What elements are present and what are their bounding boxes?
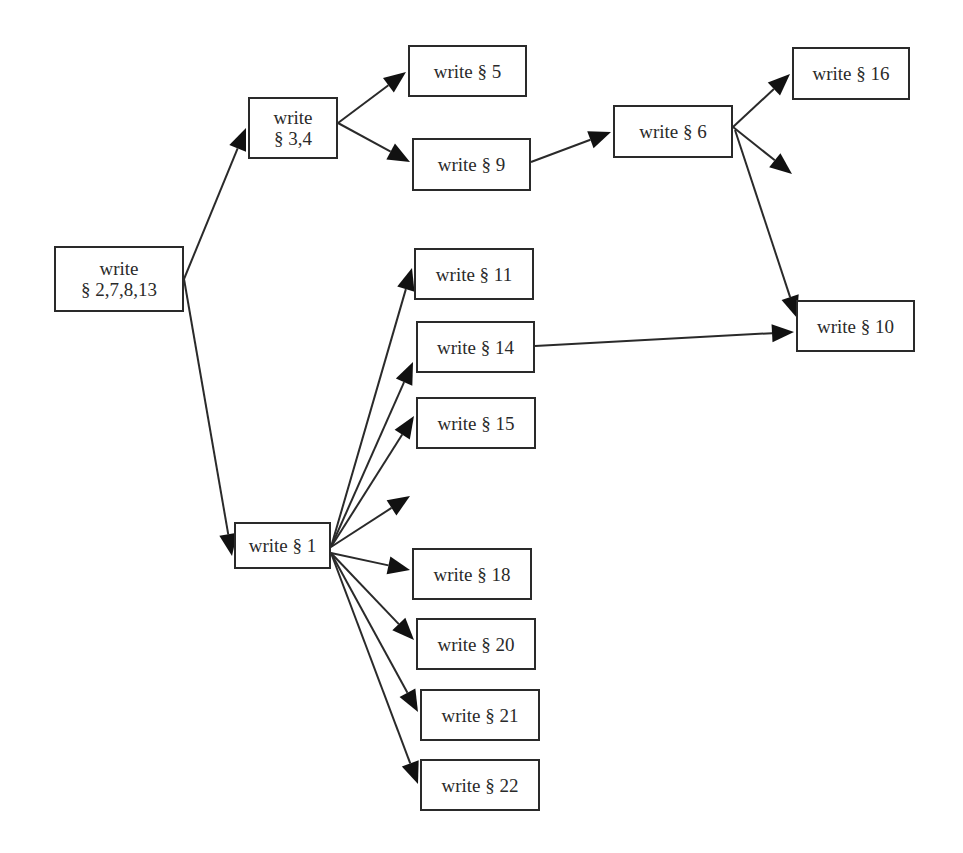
edge-n1-to-n22 <box>331 553 419 784</box>
edge-n1-to-n18 <box>331 553 410 574</box>
edge-n3_4-to-n9 <box>338 123 410 162</box>
arrowhead-icon <box>587 131 611 148</box>
node-n15[interactable]: write § 15 <box>416 397 536 449</box>
node-n16[interactable]: write § 16 <box>792 47 910 100</box>
arrowhead-icon <box>402 760 419 784</box>
edge-n3_4-to-n5 <box>338 72 406 123</box>
node-n9[interactable]: write § 9 <box>412 138 531 191</box>
arrowhead-icon <box>395 416 414 439</box>
node-n20[interactable]: write § 20 <box>416 618 536 670</box>
arrowhead-icon <box>386 144 410 162</box>
node-n18[interactable]: write § 18 <box>412 548 532 600</box>
node-n10[interactable]: write § 10 <box>796 300 915 352</box>
arrowhead-icon <box>397 268 414 292</box>
arrowhead-icon <box>229 128 246 152</box>
edge-n1-to-n15 <box>331 416 414 547</box>
node-n21[interactable]: write § 21 <box>420 689 540 741</box>
node-n11[interactable]: write § 11 <box>414 248 534 300</box>
node-n2-7-8-13[interactable]: write § 2,7,8,13 <box>54 246 184 312</box>
node-n5[interactable]: write § 5 <box>408 45 527 97</box>
edge-n14-to-n10 <box>535 324 794 346</box>
arrowhead-icon <box>769 153 792 174</box>
edge-n6-to-n10 <box>735 130 799 318</box>
node-n1[interactable]: write § 1 <box>234 522 331 569</box>
edge-n2_7_8_13-to-n3_4 <box>184 128 246 279</box>
arrowhead-icon <box>387 496 410 515</box>
arrowhead-icon <box>772 324 794 342</box>
node-n3-4[interactable]: write § 3,4 <box>248 97 338 159</box>
dependency-diagram: write § 2,7,8,13write § 3,4write § 5writ… <box>0 0 963 853</box>
arrowhead-icon <box>387 557 410 575</box>
arrowhead-icon <box>383 72 406 92</box>
node-n14[interactable]: write § 14 <box>416 321 535 373</box>
edge-n2_7_8_13-to-n1 <box>184 279 237 556</box>
arrowhead-icon <box>396 362 413 386</box>
edge-n1-to-n14 <box>331 362 413 547</box>
node-n6[interactable]: write § 6 <box>613 105 733 158</box>
edge-n9-to-n6 <box>531 131 611 162</box>
node-n22[interactable]: write § 22 <box>420 759 540 811</box>
arrowhead-icon <box>400 688 418 712</box>
edge-n6-to-n16 <box>733 74 790 127</box>
